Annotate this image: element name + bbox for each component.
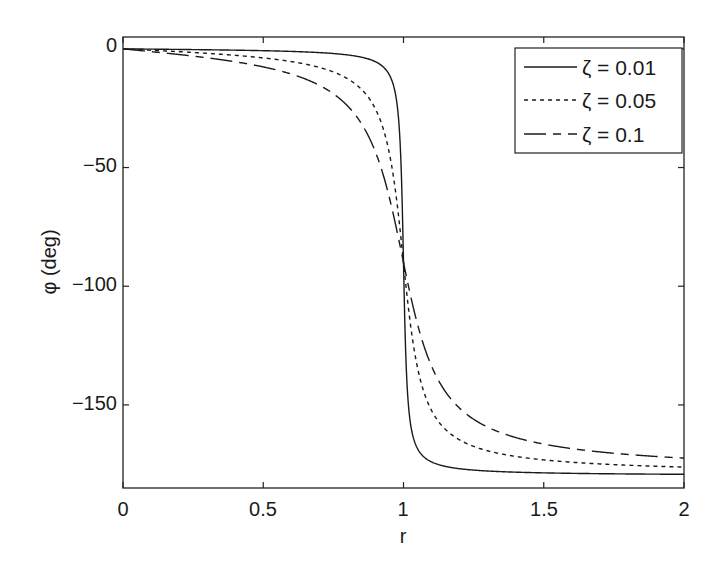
x-tick-label: 1 — [397, 498, 408, 520]
x-axis-label: r — [400, 525, 407, 547]
legend-label-zeta-01: ζ = 0.1 — [582, 123, 644, 146]
phase-response-chart: 0 0.5 1 1.5 2 0 −50 −100 −150 r φ (deg) … — [0, 0, 722, 571]
x-tick-label: 2 — [678, 498, 689, 520]
x-tick-label: 1.5 — [530, 498, 558, 520]
legend: ζ = 0.01 ζ = 0.05 ζ = 0.1 — [515, 48, 682, 153]
y-tick-label: −50 — [83, 154, 117, 176]
legend-label-zeta-005: ζ = 0.05 — [582, 89, 656, 112]
x-tick-label: 0.5 — [249, 498, 277, 520]
y-tick-label: −150 — [72, 392, 117, 414]
y-tick-label: −100 — [72, 273, 117, 295]
y-tick-label: 0 — [106, 34, 117, 56]
x-tick-label: 0 — [117, 498, 128, 520]
y-axis-label: φ (deg) — [38, 229, 60, 294]
legend-label-zeta-001: ζ = 0.01 — [582, 56, 656, 79]
